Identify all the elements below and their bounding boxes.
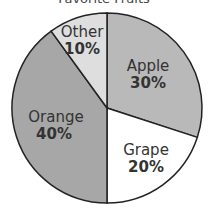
grape-name: Grape (123, 141, 169, 159)
other-name: Other (61, 23, 104, 41)
apple-name: Apple (127, 57, 170, 75)
pie-chart: Apple 30% Grape 20% Orange 40% Other 10% (0, 0, 208, 212)
orange-name: Orange (28, 108, 83, 126)
slice-label-grape: Grape 20% (123, 141, 169, 176)
apple-pct: 30% (130, 74, 166, 92)
other-pct: 10% (64, 40, 100, 58)
slice-label-other: Other 10% (61, 23, 104, 58)
grape-pct: 20% (128, 158, 164, 176)
orange-pct: 40% (36, 125, 72, 143)
slice-label-apple: Apple 30% (127, 57, 170, 92)
